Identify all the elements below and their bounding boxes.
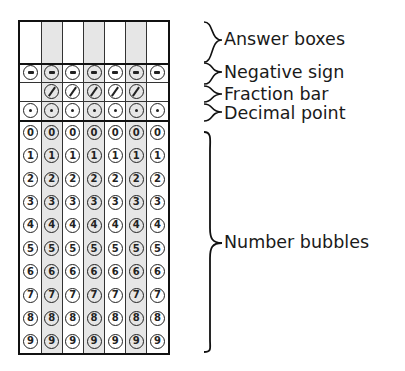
brace-decimal-point (204, 104, 222, 121)
label-fraction-bar: Fraction bar (224, 84, 328, 104)
brace-negative-sign (204, 63, 222, 84)
brace-answer-boxes (204, 22, 222, 62)
label-answer-boxes: Answer boxes (224, 29, 345, 49)
brace-fraction-bar (204, 86, 222, 102)
brace-number-bubbles (204, 132, 222, 352)
label-number-bubbles: Number bubbles (224, 232, 369, 252)
label-decimal-point: Decimal point (224, 103, 346, 123)
braces (0, 0, 405, 371)
label-negative-sign: Negative sign (224, 62, 344, 82)
